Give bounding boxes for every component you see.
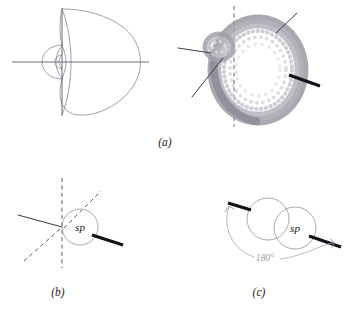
panel-label-c: (c) — [253, 286, 266, 299]
orbital-label-b: sp — [75, 221, 85, 233]
sp-hybrid-orbital-figure: (a) sp (b) sp 18 — [0, 0, 346, 311]
dashed-bond-lower-left-b — [24, 229, 60, 261]
angle-arc-left — [227, 207, 254, 257]
angle-label-180: 180° — [256, 253, 274, 263]
orbital-label-c: sp — [290, 222, 300, 234]
panel-b-simplified-orbital: sp (b) — [18, 178, 123, 299]
panel-label-b: (b) — [51, 286, 65, 299]
panel-a-right-stippled-orbital: (a) — [158, 6, 320, 149]
thin-bond-left-b — [18, 215, 62, 227]
angle-arc-arrowhead-left — [225, 206, 234, 212]
panel-a-left-cross-section — [12, 8, 149, 116]
figure-container: (a) sp (b) sp 18 — [0, 0, 346, 311]
sp-orbital-circle-c-left — [247, 198, 289, 240]
panel-label-a: (a) — [158, 136, 172, 149]
panel-c-two-sp-orbitals: sp 180° (c) — [225, 198, 341, 299]
bold-bond-upper-left-c — [228, 203, 251, 210]
bold-bond-right-b — [92, 235, 123, 245]
